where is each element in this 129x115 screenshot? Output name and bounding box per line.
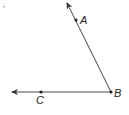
point-a bbox=[74, 18, 77, 21]
label-c: C bbox=[36, 94, 44, 106]
point-b bbox=[109, 90, 112, 93]
label-a: A bbox=[79, 14, 87, 26]
ray-ba bbox=[67, 3, 111, 92]
angle-diagram: A B C bbox=[0, 0, 129, 115]
label-b: B bbox=[114, 87, 121, 99]
stray-dot bbox=[3, 6, 5, 8]
